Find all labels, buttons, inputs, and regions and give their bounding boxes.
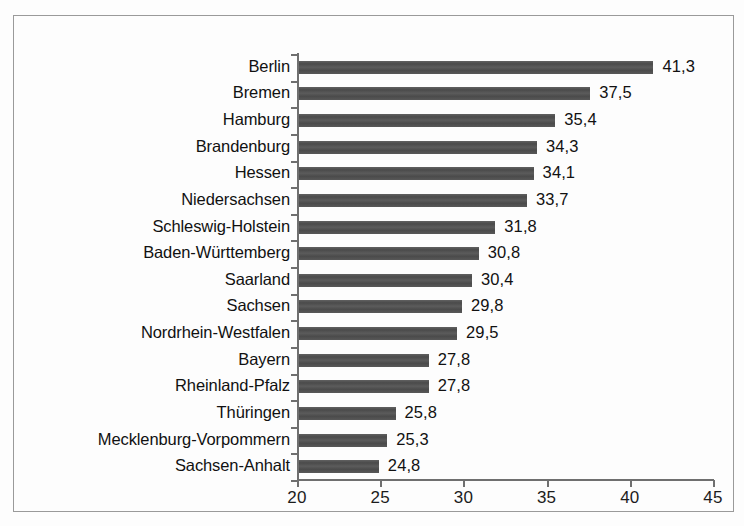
category-axis-tick [291,347,297,349]
chart-page: 202530354045Berlin41,3Bremen37,5Hamburg3… [0,0,744,526]
category-axis-tick [291,374,297,376]
bar-value-label: 25,8 [405,403,438,422]
bar-value-label: 35,4 [564,110,597,129]
category-axis-tick [291,81,297,83]
category-label: Sachsen [0,296,290,315]
category-label: Hamburg [0,110,290,129]
category-label: Berlin [0,57,290,76]
bar-value-label: 25,3 [396,430,429,449]
bar [299,460,379,473]
value-axis-tick-label: 45 [683,488,743,508]
category-label: Nordrhein-Westfalen [0,323,290,342]
category-label: Bayern [0,350,290,369]
category-label: Sachsen-Anhalt [0,456,290,475]
category-axis-tick [291,427,297,429]
value-axis-tick [297,480,299,487]
category-axis-tick [291,214,297,216]
bar [299,87,590,100]
category-axis-tick [291,107,297,109]
category-label: Rheinland-Pfalz [0,376,290,395]
bar-value-label: 24,8 [388,456,421,475]
bar-value-label: 29,5 [466,323,499,342]
bar-value-label: 29,8 [471,296,504,315]
bar [299,141,537,154]
category-axis-tick [291,453,297,455]
category-axis-tick [291,187,297,189]
category-axis-tick [291,480,297,482]
category-axis-tick [291,161,297,163]
bar [299,61,653,74]
value-axis-tick [630,480,632,487]
bar-value-label: 37,5 [599,83,632,102]
category-axis-tick [291,267,297,269]
bar-value-label: 33,7 [536,190,569,209]
value-axis-tick [713,480,715,487]
bar [299,407,396,420]
bar-value-label: 27,8 [438,376,471,395]
category-label: Mecklenburg-Vorpommern [0,430,290,449]
figure-border: 202530354045Berlin41,3Bremen37,5Hamburg3… [13,15,734,512]
category-axis-tick [291,54,297,56]
value-axis-tick-label: 40 [600,488,660,508]
value-axis-tick [463,480,465,487]
bar-value-label: 41,3 [662,57,695,76]
category-axis-tick [291,240,297,242]
category-axis-tick [291,320,297,322]
bar [299,167,534,180]
category-axis-tick [291,400,297,402]
bar [299,300,462,313]
category-label: Hessen [0,163,290,182]
category-label: Thüringen [0,403,290,422]
bar-value-label: 27,8 [438,350,471,369]
bar [299,380,429,393]
category-label: Saarland [0,270,290,289]
category-axis-tick [291,294,297,296]
value-axis-tick-label: 20 [267,488,327,508]
bar [299,274,472,287]
category-label: Brandenburg [0,137,290,156]
bar [299,434,387,447]
bar [299,221,495,234]
value-axis-tick-label: 30 [433,488,493,508]
bar [299,327,457,340]
bar-value-label: 34,1 [543,163,576,182]
value-axis-tick [547,480,549,487]
value-axis-tick-label: 35 [517,488,577,508]
category-label: Schleswig-Holstein [0,217,290,236]
category-label: Niedersachsen [0,190,290,209]
bar-value-label: 30,8 [488,243,521,262]
bar-value-label: 31,8 [504,217,537,236]
category-label: Bremen [0,83,290,102]
bar-value-label: 34,3 [546,137,579,156]
bar [299,114,555,127]
category-label: Baden-Württemberg [0,243,290,262]
bar [299,194,527,207]
bar [299,354,429,367]
value-axis-tick-label: 25 [350,488,410,508]
value-axis-tick [380,480,382,487]
bar [299,247,479,260]
category-axis-tick [291,134,297,136]
bar-value-label: 30,4 [481,270,514,289]
